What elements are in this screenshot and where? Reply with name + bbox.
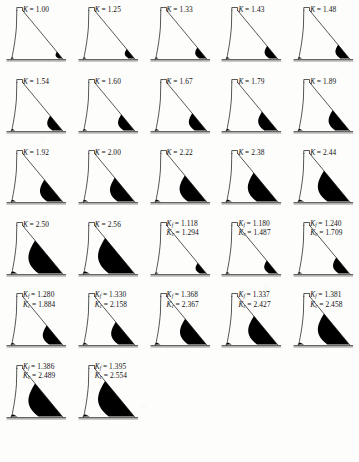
- k-value: 1.79: [251, 77, 264, 86]
- heel-crack-wedge: [10, 414, 17, 416]
- panel-label-k: K = 1.00: [23, 6, 49, 15]
- kc-symbol: Kc: [238, 228, 245, 237]
- heel-crack-wedge: [226, 128, 231, 130]
- panel-label-k: K = 1.33: [167, 6, 193, 15]
- panel-label-k: K = 1.54: [23, 78, 49, 87]
- cracked-zone: [56, 52, 63, 59]
- panel-label-kf-kc: Kf = 1.118Kc = 1.294: [167, 220, 199, 239]
- dam-panel: K = 1.43: [215, 0, 287, 72]
- panel-label-kf-kc: Kf = 1.240Kc = 1.709: [310, 220, 342, 239]
- kc-value: 2.367: [182, 300, 199, 309]
- heel-crack-wedge: [298, 271, 303, 273]
- k-symbol: K: [310, 5, 315, 14]
- dam-panel: K = 1.60: [72, 72, 144, 144]
- kc-line: Kc = 1.884: [23, 301, 55, 310]
- dam-upstream-face: [12, 10, 17, 59]
- foundation-line: [7, 60, 67, 61]
- dam-panel: K = 1.92: [0, 143, 72, 215]
- dam-downstream-face: [238, 10, 278, 59]
- k-value: 1.89: [323, 77, 336, 86]
- k-value: 2.22: [179, 148, 192, 157]
- cracked-zone: [40, 180, 62, 202]
- heel-crack-wedge: [82, 57, 86, 58]
- dam-upstream-face: [299, 153, 304, 202]
- kc-line: Kc = 2.427: [238, 301, 270, 310]
- k-symbol: K: [310, 77, 315, 86]
- heel-crack-wedge: [10, 343, 15, 345]
- foundation-line: [7, 274, 67, 275]
- dam-panel: Kf = 1.330Kc = 2.158: [72, 286, 144, 358]
- k-value: 1.92: [36, 148, 49, 157]
- dam-crest: [304, 222, 310, 225]
- k-symbol: K: [23, 77, 28, 86]
- k-value: 1.67: [179, 77, 192, 86]
- foundation-line: [294, 346, 354, 347]
- heel-crack-wedge: [154, 200, 160, 202]
- dam-upstream-face: [12, 296, 17, 345]
- dam-crest: [304, 79, 310, 82]
- kc-symbol: Kc: [238, 300, 245, 309]
- cracked-zone: [265, 46, 278, 58]
- k-value: 1.48: [323, 5, 336, 14]
- heel-crack-wedge: [82, 343, 88, 345]
- k-value: 1.43: [251, 5, 264, 14]
- panel-label-kf-kc: Kf = 1.330Kc = 2.158: [95, 291, 127, 310]
- dam-panel: Kf = 1.118Kc = 1.294: [144, 215, 216, 287]
- k-symbol: K: [23, 220, 28, 229]
- dam-downstream-face: [94, 82, 134, 131]
- k-symbol: K: [95, 148, 100, 157]
- foundation-line: [78, 417, 138, 418]
- dam-crest: [89, 365, 95, 368]
- dam-downstream-face: [310, 10, 350, 59]
- dam-upstream-face: [83, 225, 88, 274]
- foundation-line: [150, 131, 210, 132]
- kf-value: 1.386: [37, 362, 54, 371]
- dam-crest: [89, 222, 95, 225]
- dam-crest: [89, 79, 95, 82]
- dam-crest: [89, 151, 95, 154]
- cracked-zone: [180, 319, 206, 345]
- cracked-zone: [249, 316, 278, 344]
- dam-crest: [17, 151, 23, 154]
- dam-crest: [160, 222, 166, 225]
- heel-crack-wedge: [154, 128, 159, 130]
- cracked-zone: [333, 257, 349, 273]
- kc-line: Kc = 2.458: [310, 301, 342, 310]
- dam-panel: K = 1.33: [144, 0, 216, 72]
- foundation-line: [222, 203, 282, 204]
- kf-symbol: Kf: [95, 290, 102, 299]
- kf-value: 1.118: [181, 219, 198, 228]
- foundation-line: [222, 274, 282, 275]
- cracked-zone: [179, 175, 206, 201]
- dam-panel: K = 1.00: [0, 0, 72, 72]
- panel-label-k: K = 1.60: [95, 78, 121, 87]
- panel-label-kf-kc: Kf = 1.381Kc = 2.458: [310, 291, 342, 310]
- dam-downstream-face: [23, 10, 63, 59]
- kf-symbol: Kf: [167, 290, 174, 299]
- panel-label-k: K = 1.67: [167, 78, 193, 87]
- kc-symbol: Kc: [95, 300, 102, 309]
- kc-symbol: Kc: [167, 300, 174, 309]
- cracked-zone: [265, 260, 278, 273]
- kf-symbol: Kf: [23, 290, 30, 299]
- kf-value: 1.395: [109, 362, 126, 371]
- kc-value: 2.489: [38, 371, 55, 380]
- k-symbol: K: [310, 148, 315, 157]
- kc-symbol: Kc: [23, 371, 30, 380]
- cracked-zone: [98, 381, 134, 416]
- dam-downstream-face: [238, 82, 278, 131]
- dam-downstream-face: [166, 10, 206, 59]
- dam-crest: [304, 151, 310, 154]
- kc-value: 1.294: [182, 228, 199, 237]
- foundation-line: [222, 60, 282, 61]
- k-symbol: K: [23, 148, 28, 157]
- dam-panel: K = 2.22: [144, 143, 216, 215]
- heel-crack-wedge: [154, 343, 160, 345]
- kf-symbol: Kf: [310, 290, 317, 299]
- kf-symbol: Kf: [238, 219, 245, 228]
- dam-upstream-face: [299, 296, 304, 345]
- panel-label-kf-kc: Kf = 1.386Kc = 2.489: [23, 363, 55, 382]
- panel-label-k: K = 2.50: [23, 221, 49, 230]
- cracked-zone: [118, 114, 134, 130]
- kc-symbol: Kc: [23, 300, 30, 309]
